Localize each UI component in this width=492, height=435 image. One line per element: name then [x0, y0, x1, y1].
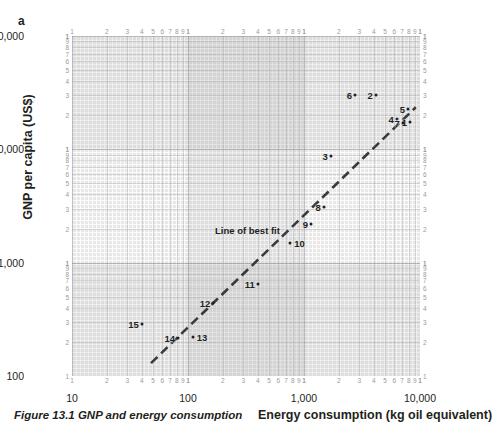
- minor-tick-label: 1: [186, 28, 190, 35]
- minor-tick-label: 1: [418, 28, 422, 35]
- minor-tick-label: 7: [168, 28, 172, 35]
- minor-tick-label: 5: [267, 28, 271, 35]
- minor-tick-label: 2: [221, 28, 225, 35]
- minor-tick-label: 4: [140, 28, 144, 35]
- minor-tick-label: 7: [400, 377, 404, 384]
- minor-tick-label: 7: [422, 163, 427, 170]
- minor-tick-label: 3: [126, 28, 130, 35]
- minor-tick-label: 5: [151, 28, 155, 35]
- minor-tick-label: 3: [65, 205, 70, 212]
- minor-tick-label: 4: [256, 377, 260, 384]
- minor-tick-label: 7: [284, 377, 288, 384]
- minor-tick-label: 4: [65, 191, 70, 198]
- minor-tick-label: 7: [400, 28, 404, 35]
- data-point-label: 12: [200, 298, 211, 309]
- y-axis-title: GNP per capita (US$): [21, 47, 35, 267]
- minor-tick-label: 8: [175, 28, 179, 35]
- minor-tick-label: 6: [65, 171, 70, 178]
- data-point: [322, 205, 325, 208]
- minor-tick-label: 4: [65, 304, 70, 311]
- data-point: [140, 322, 143, 325]
- minor-tick-label: 2: [422, 112, 427, 119]
- data-point-label: 9: [303, 218, 308, 229]
- minor-tick-label: 4: [372, 28, 376, 35]
- data-point-label: 8: [315, 201, 320, 212]
- minor-tick-label: 3: [65, 318, 70, 325]
- minor-tick-label: 7: [284, 28, 288, 35]
- minor-tick-label: 7: [422, 277, 427, 284]
- x-tick-label: 10: [66, 392, 78, 404]
- data-point: [191, 336, 194, 339]
- minor-tick-label: 9: [181, 377, 185, 384]
- data-point-label: 13: [197, 332, 208, 343]
- minor-tick-label: 5: [65, 67, 70, 74]
- minor-tick-label: 2: [65, 112, 70, 119]
- minor-tick-label: 3: [422, 92, 427, 99]
- minor-tick-label: 1: [302, 377, 306, 384]
- minor-tick-label: 6: [422, 58, 427, 65]
- minor-tick-label: 6: [392, 377, 396, 384]
- minor-tick-label: 2: [422, 338, 427, 345]
- data-point-label: 10: [294, 237, 305, 248]
- minor-tick-label: 5: [422, 180, 427, 187]
- data-point-label: 11: [245, 278, 255, 289]
- minor-tick-label: 8: [291, 28, 295, 35]
- data-point: [212, 302, 215, 305]
- minor-tick-label: 2: [221, 377, 225, 384]
- minor-tick-label: 2: [105, 28, 109, 35]
- minor-tick-label: 2: [422, 225, 427, 232]
- minor-tick-label: 1: [418, 377, 422, 384]
- x-tick-label: 1,000: [291, 392, 317, 404]
- minor-tick-label: 7: [65, 163, 70, 170]
- line-of-best-fit: [72, 36, 420, 376]
- minor-tick-label: 4: [140, 377, 144, 384]
- minor-tick-label: 1: [422, 259, 427, 266]
- minor-tick-label: 8: [407, 377, 411, 384]
- minor-tick-label: 2: [337, 28, 341, 35]
- minor-tick-label: 1: [422, 146, 427, 153]
- minor-tick-label: 8: [291, 377, 295, 384]
- data-point: [289, 241, 292, 244]
- data-point-label: 4: [388, 114, 393, 125]
- minor-tick-label: 6: [65, 284, 70, 291]
- x-tick-label: 10,000: [404, 392, 436, 404]
- minor-tick-label: 1: [65, 259, 70, 266]
- data-point: [374, 94, 377, 97]
- minor-tick-label: 1: [422, 373, 427, 380]
- minor-tick-label: 5: [422, 67, 427, 74]
- minor-tick-label: 5: [383, 377, 387, 384]
- x-tick-label: 100: [179, 392, 197, 404]
- minor-tick-label: 3: [358, 28, 362, 35]
- minor-tick-label: 7: [65, 277, 70, 284]
- minor-tick-label: 4: [372, 377, 376, 384]
- data-point: [177, 337, 180, 340]
- y-tick-label: 100,000: [0, 30, 24, 42]
- minor-tick-label: 3: [242, 377, 246, 384]
- data-point-label: 15: [128, 318, 139, 329]
- minor-tick-label: 1: [65, 146, 70, 153]
- minor-tick-label: 4: [422, 191, 427, 198]
- minor-tick-label: 8: [407, 28, 411, 35]
- minor-tick-label: 6: [422, 171, 427, 178]
- minor-tick-label: 4: [422, 304, 427, 311]
- data-point-label: 5: [400, 104, 405, 115]
- minor-tick-label: 1: [186, 377, 190, 384]
- data-point: [401, 122, 404, 125]
- data-point-label: 6: [347, 90, 352, 101]
- x-axis-title: Energy consumption (kg oil equivalent): [258, 408, 492, 422]
- minor-tick-label: 2: [105, 377, 109, 384]
- data-point-label: 2: [367, 90, 372, 101]
- minor-tick-label: 3: [126, 377, 130, 384]
- minor-tick-label: 3: [422, 205, 427, 212]
- data-point: [409, 120, 412, 123]
- data-point-label: 3: [322, 151, 327, 162]
- minor-tick-label: 2: [337, 377, 341, 384]
- minor-tick-label: 5: [267, 377, 271, 384]
- minor-tick-label: 3: [242, 28, 246, 35]
- minor-tick-label: 8: [175, 377, 179, 384]
- data-point-label: 14: [164, 333, 175, 344]
- minor-tick-label: 5: [383, 28, 387, 35]
- minor-tick-label: 1: [70, 28, 74, 35]
- minor-tick-label: 1: [65, 33, 70, 40]
- minor-tick-label: 7: [65, 50, 70, 57]
